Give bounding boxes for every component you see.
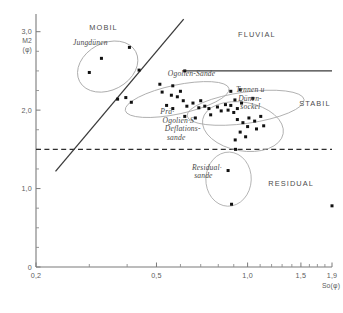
zone-label-stabil: STABIL [299,99,331,108]
data-point [331,204,334,207]
data-point [253,120,256,123]
zone-label-mobil: MOBIL [89,23,118,32]
data-point [194,116,197,119]
data-point [199,99,202,102]
group-label-jungduenen-line-1: Jungdünen [73,38,108,47]
data-point [234,138,237,141]
data-point [116,98,119,101]
data-point [191,102,194,105]
data-point [234,148,237,151]
data-point [239,131,242,134]
data-point [259,115,262,118]
x-tick-label-0-5: 0,5 [151,271,162,280]
data-point [138,69,141,72]
x-tick-label-1-9: 1,9 [327,271,338,280]
y-tick-label-0: 0 [28,263,32,272]
y-axis-title-line-2: (φ) [22,46,32,54]
x-tick-label-1-5: 1,5 [296,271,307,280]
y-tick-label-2-0: 2,0 [21,106,32,115]
zone-label-residual: RESIDUAL [268,179,314,188]
group-label-ogolien-sande-line-1: Ogolien-Sande [168,69,216,78]
data-point [209,113,212,116]
data-point [232,111,235,114]
y-tick-label-1-0: 1,0 [21,184,32,193]
data-point [230,203,233,206]
x-axis-title: So(φ) [322,282,340,290]
data-point [170,94,173,97]
data-point [229,104,232,107]
data-point [88,71,91,74]
data-point [236,118,239,121]
data-point [128,46,131,49]
zone-label-fluvial: FLUVIAL [238,30,276,39]
data-point [220,109,223,112]
chart-canvas: 0,20,51,01,51,9So(φ)01,02,03,0M2(φ)MOBIL… [0,0,343,313]
data-point [130,101,133,104]
data-point [246,125,249,128]
data-point [244,135,247,138]
data-point [185,105,188,108]
group-label-tennen-duenensockel-line-3: sockel [240,102,260,111]
data-point [247,116,250,119]
data-point [203,105,206,108]
y-axis-title-line-1: M2 [22,37,32,44]
data-point [229,90,232,93]
data-point [124,96,127,99]
data-point [179,90,182,93]
group-label-residualsande-line-2: sande [194,171,213,180]
data-point [241,121,244,124]
x-tick-label-0-2: 0,2 [31,271,42,280]
data-point [255,127,258,130]
data-point [158,83,161,86]
data-point [176,95,179,98]
data-point [182,99,185,102]
data-point [233,98,236,101]
group-label-prae-ogolien-deflationssande-line-4: sande [167,133,186,142]
x-tick-label-1-0: 1,0 [242,271,253,280]
data-point [197,106,200,109]
data-point [227,169,230,172]
data-point [161,91,164,94]
data-point [227,109,230,112]
data-point [262,124,265,127]
data-point [100,57,103,60]
data-point [236,107,239,110]
data-point [224,103,227,106]
data-point [207,107,210,110]
data-point [171,84,174,87]
y-tick-label-3-0: 3,0 [21,27,32,36]
scatter-chart-figure: 0,20,51,01,51,9So(φ)01,02,03,0M2(φ)MOBIL… [0,0,343,313]
data-point [216,105,219,108]
